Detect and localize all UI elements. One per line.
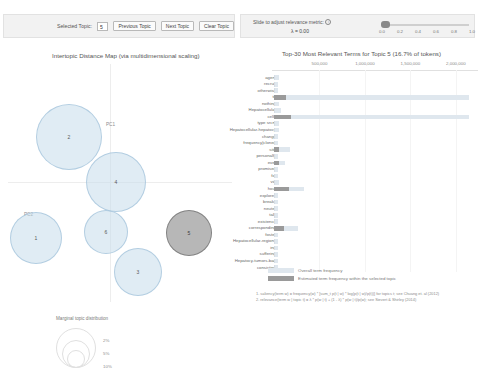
term-row[interactable]: existence bbox=[228, 219, 478, 225]
marginal-label-10pct: 10% bbox=[103, 364, 112, 369]
term-row[interactable]: Hepatocy-tumors-bad bbox=[228, 258, 478, 264]
frequency-legend: Overall term frequency Estimated term fr… bbox=[268, 268, 396, 284]
term-row[interactable]: ever bbox=[228, 160, 478, 166]
selected-topic-label: Selected Topic: bbox=[57, 23, 92, 29]
term-row[interactable]: site bbox=[228, 147, 478, 153]
legend-swatch-within bbox=[268, 276, 294, 281]
clear-topic-button[interactable]: Clear Topic bbox=[199, 21, 234, 31]
bar-topic-frequency bbox=[274, 95, 286, 100]
x-tick-1: 1,000,000 bbox=[355, 61, 375, 66]
term-row[interactable]: personally bbox=[228, 154, 478, 160]
bar-overall-frequency bbox=[274, 108, 281, 113]
bar-topic-frequency bbox=[274, 167, 275, 172]
bar-topic-frequency bbox=[274, 134, 275, 139]
topic-bubble-label: 3 bbox=[137, 269, 140, 275]
term-row[interactable]: talk bbox=[228, 213, 478, 219]
bar-topic-frequency bbox=[274, 161, 279, 166]
lambda-control-bar: Slide to adjust relevance metric: i λ = … bbox=[240, 14, 475, 38]
intertopic-map-title: Intertopic Distance Map (via multidimens… bbox=[52, 52, 200, 59]
bar-topic-frequency bbox=[274, 147, 279, 152]
term-row[interactable]: Hepatocellular-hepatocy bbox=[228, 127, 478, 133]
term-row[interactable]: recruit bbox=[228, 82, 478, 88]
term-row[interactable]: promised bbox=[228, 167, 478, 173]
bar-topic-frequency bbox=[274, 108, 275, 113]
term-row[interactable]: ing bbox=[228, 245, 478, 251]
bar-topic-frequency bbox=[274, 239, 275, 244]
term-row[interactable]: fat bbox=[228, 173, 478, 179]
term-row[interactable]: otherwise bbox=[228, 88, 478, 94]
term-row[interactable]: corresponding bbox=[228, 226, 478, 232]
term-row[interactable]: type srcm bbox=[228, 121, 478, 127]
term-row[interactable]: agent bbox=[228, 75, 478, 81]
bar-topic-frequency bbox=[274, 121, 275, 126]
next-topic-button[interactable]: Next Topic bbox=[161, 21, 194, 31]
term-row[interactable]: neuter bbox=[228, 206, 478, 212]
intertopic-distance-map: PC1 PC2 241635 Marginal topic distributi… bbox=[0, 60, 238, 322]
topic-bubble-label: 2 bbox=[68, 134, 71, 140]
lambda-slider-handle[interactable] bbox=[381, 21, 390, 28]
term-row[interactable]: foster bbox=[228, 232, 478, 238]
topic-bubble-label: 4 bbox=[115, 179, 118, 185]
lambda-tick-5: 1.0 bbox=[469, 29, 475, 34]
topic-bubble-4[interactable]: 4 bbox=[86, 152, 146, 212]
marginal-circle-10pct bbox=[56, 328, 96, 368]
bar-topic-frequency bbox=[274, 252, 275, 257]
bar-overall-frequency bbox=[274, 115, 469, 120]
bar-topic-frequency bbox=[274, 128, 275, 133]
lambda-value-label: λ = 0.00 bbox=[291, 28, 309, 34]
term-row[interactable]: via bbox=[228, 180, 478, 186]
topic-bubble-label: 5 bbox=[188, 230, 191, 236]
topic-bubble-6[interactable]: 6 bbox=[84, 210, 128, 254]
term-label: Hepatocellular-hepatocy bbox=[230, 127, 276, 132]
term-row[interactable]: hout bbox=[228, 186, 478, 192]
topic-bubble-label: 6 bbox=[105, 229, 108, 235]
lambda-slider-track[interactable] bbox=[384, 24, 469, 26]
info-icon[interactable]: i bbox=[325, 19, 331, 25]
term-row[interactable]: cells bbox=[228, 114, 478, 120]
x-tick-0: 500,000 bbox=[312, 61, 328, 66]
bar-topic-frequency bbox=[274, 82, 275, 87]
bar-topic-frequency bbox=[274, 200, 275, 205]
topic-bubble-2[interactable]: 2 bbox=[36, 104, 102, 170]
relevance-metric-label: Slide to adjust relevance metric: i bbox=[253, 19, 331, 25]
legend-label-within: Estimated term frequency within the sele… bbox=[298, 276, 396, 281]
top-terms-title: Top-30 Most Relevant Terms for Topic 5 (… bbox=[282, 50, 441, 57]
term-label: Hepatocellular bbox=[249, 107, 276, 112]
footnote-relevance: 2. relevance(term w | topic t) = λ * p(w… bbox=[256, 297, 439, 303]
lambda-tick-3: 0.6 bbox=[433, 29, 439, 34]
bar-overall-frequency bbox=[274, 102, 279, 107]
topic-bubble-5[interactable]: 5 bbox=[166, 210, 212, 256]
bar-topic-frequency bbox=[274, 226, 284, 231]
bar-topic-frequency bbox=[274, 88, 275, 93]
topic-bubble-1[interactable]: 1 bbox=[10, 212, 62, 264]
term-row[interactable]: breaks bbox=[228, 199, 478, 205]
bar-overall-frequency bbox=[274, 121, 279, 126]
barchart-x-axis bbox=[272, 70, 478, 71]
term-label: frequency|cloned bbox=[243, 140, 276, 145]
selected-topic-input[interactable]: 5 bbox=[97, 22, 108, 31]
bar-topic-frequency bbox=[274, 75, 275, 80]
term-row[interactable]: frequency|cloned bbox=[228, 141, 478, 147]
bar-topic-frequency bbox=[274, 187, 289, 192]
lambda-tick-2: 0.4 bbox=[415, 29, 421, 34]
term-row[interactable]: Hepatocellular bbox=[228, 108, 478, 114]
bar-topic-frequency bbox=[274, 115, 291, 120]
term-row[interactable]: nothing bbox=[228, 101, 478, 107]
marginal-label-2pct: 2% bbox=[103, 338, 109, 343]
term-row[interactable]: to bbox=[228, 95, 478, 101]
bar-overall-frequency bbox=[274, 95, 469, 100]
formula-footnotes: 1. saliency(term w) = frequency(w) * [su… bbox=[256, 291, 439, 303]
topic-bubble-3[interactable]: 3 bbox=[114, 248, 162, 296]
term-row[interactable]: explores bbox=[228, 193, 478, 199]
term-row[interactable]: suffering bbox=[228, 252, 478, 258]
pc1-axis-label: PC1 bbox=[106, 122, 115, 127]
term-row[interactable]: Hepatocellular-regions bbox=[228, 239, 478, 245]
bar-topic-frequency bbox=[274, 213, 275, 218]
term-row[interactable]: change bbox=[228, 134, 478, 140]
x-tick-2: 1,500,000 bbox=[401, 61, 421, 66]
lambda-tick-1: 0.2 bbox=[397, 29, 403, 34]
marginal-legend-circles: 2%5%10% bbox=[56, 324, 160, 372]
bar-topic-frequency bbox=[274, 141, 275, 146]
previous-topic-button[interactable]: Previous Topic bbox=[113, 21, 155, 31]
